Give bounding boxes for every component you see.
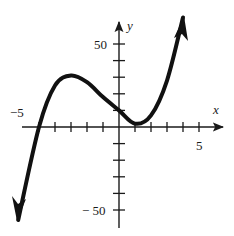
y-tick-label-neg50: − 50 xyxy=(82,203,106,218)
y-axis-label: y xyxy=(125,18,133,33)
cubic-function-graph: y x −5 5 50 − 50 xyxy=(0,0,234,236)
y-tick-label-50: 50 xyxy=(94,37,107,52)
x-tick-label-neg5: −5 xyxy=(10,105,24,120)
x-tick-label-5: 5 xyxy=(196,138,203,153)
x-axis-label: x xyxy=(212,102,219,117)
